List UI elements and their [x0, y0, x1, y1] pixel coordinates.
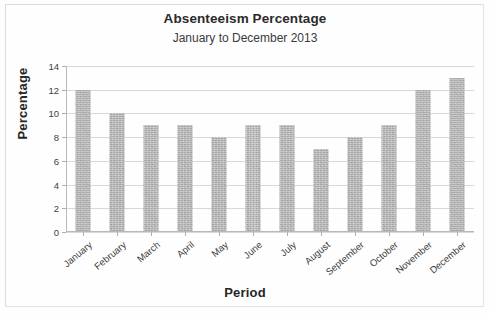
x-axis-tick-mark [321, 232, 322, 236]
y-axis-tick-mark [62, 232, 66, 233]
y-axis-tick-label: 4 [54, 179, 59, 190]
x-axis-tick-mark [457, 232, 458, 236]
chart-subtitle: January to December 2013 [0, 31, 490, 45]
x-axis-tick-label: April [175, 239, 197, 260]
x-axis-tick-label: November [394, 239, 435, 276]
y-axis-tick-label: 12 [48, 84, 59, 95]
x-axis-tick-label: February [92, 239, 128, 272]
x-axis-tick-mark [117, 232, 118, 236]
plot-area: 02468101214 JanuaryFebruaryMarchAprilMay… [66, 66, 474, 232]
x-axis-tick-mark [219, 232, 220, 236]
y-axis-tick-label: 0 [54, 227, 59, 238]
x-axis-tick-mark [287, 232, 288, 236]
x-axis-tick-label: December [428, 239, 469, 276]
gridline [66, 232, 474, 233]
chart-title: Absenteeism Percentage [0, 11, 490, 26]
y-axis-tick-label: 2 [54, 203, 59, 214]
plot-frame [66, 66, 474, 232]
x-axis-tick-label: August [303, 239, 333, 266]
y-axis-tick-label: 8 [54, 132, 59, 143]
x-axis-tick-label: January [62, 239, 95, 269]
y-axis-title: Percentage [15, 49, 30, 159]
x-axis-title: Period [0, 285, 490, 300]
x-axis-tick-label: July [279, 239, 299, 258]
x-axis-tick-mark [423, 232, 424, 236]
x-axis-tick-label: March [135, 239, 162, 264]
y-axis-tick-label: 14 [48, 61, 59, 72]
x-axis-tick-mark [185, 232, 186, 236]
x-axis-tick-mark [253, 232, 254, 236]
x-axis-tick-label: May [210, 239, 231, 259]
x-axis-tick-mark [389, 232, 390, 236]
x-axis-tick-mark [355, 232, 356, 236]
y-axis-tick-label: 6 [54, 155, 59, 166]
y-axis-tick-label: 10 [48, 108, 59, 119]
x-axis-tick-mark [83, 232, 84, 236]
x-axis-tick-mark [151, 232, 152, 236]
bar-chart-figure: Absenteeism Percentage January to Decemb… [0, 0, 490, 314]
x-axis-tick-label: June [242, 239, 265, 261]
